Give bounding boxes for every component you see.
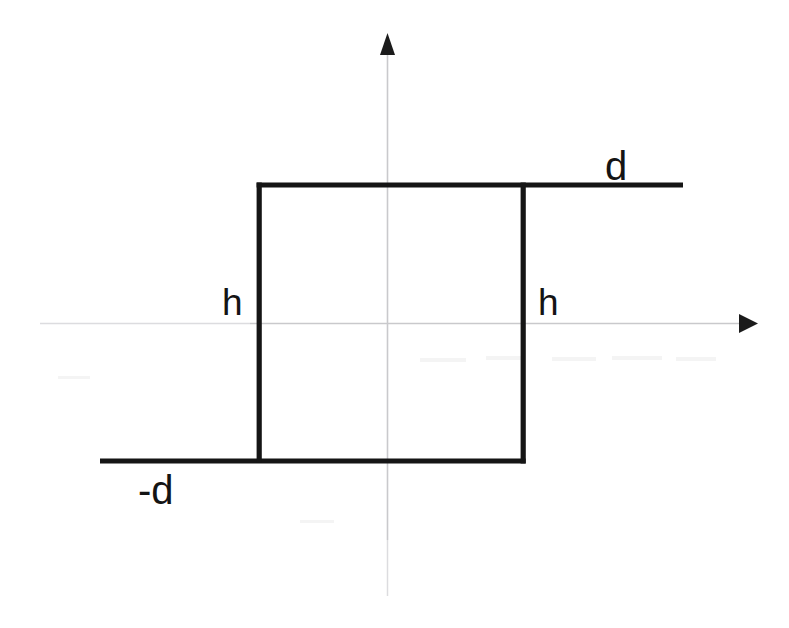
x-axis-arrow-icon	[739, 314, 758, 333]
y-axis-arrow-icon	[380, 33, 395, 55]
x-axis	[40, 314, 758, 333]
label-threshold-left-h: h	[222, 284, 243, 321]
diagram-canvas	[0, 0, 789, 628]
hysteresis-diagram: d -d h h	[0, 0, 789, 628]
label-threshold-right-h: h	[538, 284, 559, 321]
y-axis	[380, 33, 395, 596]
label-output-low-negative-d: -d	[138, 470, 174, 510]
label-output-high-d: d	[605, 146, 627, 186]
